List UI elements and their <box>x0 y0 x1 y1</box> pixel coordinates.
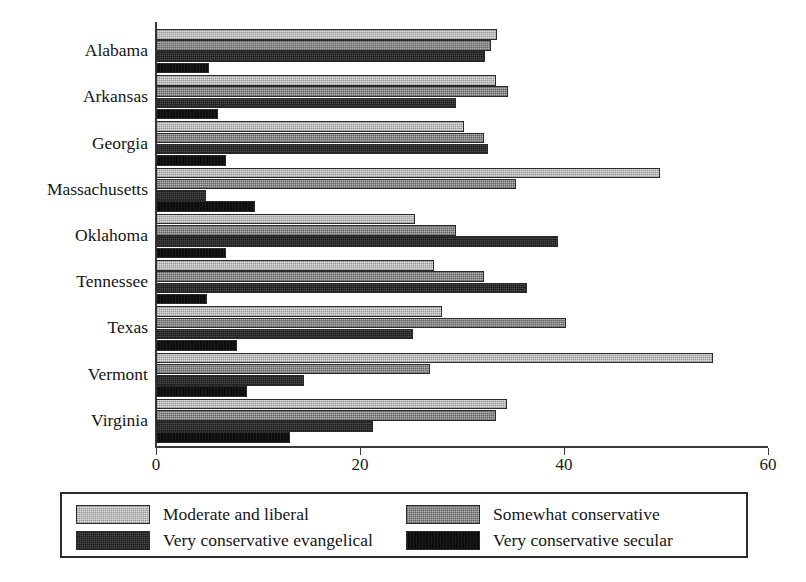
category-label-texas: Texas <box>107 317 148 337</box>
legend-item-very-conservative-evangelical: Very conservative evangelical <box>76 529 373 551</box>
bar-alabama-series-2 <box>156 51 485 62</box>
bar-texas-series-0 <box>156 306 442 317</box>
category-label-vermont: Vermont <box>88 364 148 384</box>
legend-swatch-icon-series-2 <box>76 531 150 550</box>
x-tick-label: 40 <box>544 455 584 475</box>
plot-area: AlabamaArkansasGeorgiaMassachusettsOklah… <box>0 0 806 480</box>
bar-tennessee-series-1 <box>156 271 484 282</box>
bar-tennessee-series-3 <box>156 294 207 305</box>
category-label-virginia: Virginia <box>91 410 148 430</box>
x-tick-label: 60 <box>748 455 788 475</box>
bar-chart: AlabamaArkansasGeorgiaMassachusettsOklah… <box>0 0 806 582</box>
bar-oklahoma-series-1 <box>156 225 456 236</box>
legend-label-series-0: Moderate and liberal <box>163 504 309 524</box>
bar-georgia-series-0 <box>156 121 464 132</box>
legend-label-series-1: Somewhat conservative <box>493 504 660 524</box>
bar-virginia-series-3 <box>156 432 290 443</box>
x-tick-label: 20 <box>340 455 380 475</box>
x-tick-mark <box>360 448 361 455</box>
legend-item-moderate-and-liberal: Moderate and liberal <box>76 503 309 525</box>
bar-alabama-series-3 <box>156 63 209 74</box>
legend-item-somewhat-conservative: Somewhat conservative <box>406 503 660 525</box>
bar-oklahoma-series-0 <box>156 214 415 225</box>
bar-tennessee-series-0 <box>156 260 434 271</box>
legend-label-series-3: Very conservative secular <box>493 530 673 550</box>
bar-virginia-series-1 <box>156 410 496 421</box>
legend-item-very-conservative-secular: Very conservative secular <box>406 529 673 551</box>
x-tick-mark <box>564 448 565 455</box>
bar-virginia-series-0 <box>156 399 507 410</box>
category-label-oklahoma: Oklahoma <box>75 225 148 245</box>
bar-texas-series-3 <box>156 340 237 351</box>
legend-swatch-icon-series-3 <box>406 531 480 550</box>
bar-alabama-series-0 <box>156 29 497 40</box>
bar-massachusetts-series-3 <box>156 201 255 212</box>
bar-texas-series-2 <box>156 329 413 340</box>
bar-arkansas-series-3 <box>156 109 218 120</box>
bar-massachusetts-series-0 <box>156 168 660 179</box>
bar-massachusetts-series-1 <box>156 179 516 190</box>
bar-vermont-series-1 <box>156 364 430 375</box>
bar-texas-series-1 <box>156 318 566 329</box>
x-tick-mark <box>156 448 157 455</box>
bar-vermont-series-0 <box>156 353 713 364</box>
bar-arkansas-series-1 <box>156 86 508 97</box>
bar-virginia-series-2 <box>156 421 373 432</box>
bar-georgia-series-3 <box>156 155 226 166</box>
legend: Moderate and liberal Somewhat conservati… <box>60 492 748 558</box>
bar-vermont-series-3 <box>156 386 247 397</box>
category-label-georgia: Georgia <box>92 133 148 153</box>
legend-label-series-2: Very conservative evangelical <box>163 530 373 550</box>
category-label-arkansas: Arkansas <box>83 86 148 106</box>
bar-arkansas-series-0 <box>156 75 496 86</box>
x-tick-label: 0 <box>136 455 176 475</box>
bar-vermont-series-2 <box>156 375 304 386</box>
bar-georgia-series-1 <box>156 133 484 144</box>
category-label-tennessee: Tennessee <box>76 271 148 291</box>
bar-georgia-series-2 <box>156 144 488 155</box>
category-label-alabama: Alabama <box>85 40 148 60</box>
legend-swatch-icon-series-0 <box>76 505 150 524</box>
bar-massachusetts-series-2 <box>156 190 206 201</box>
bar-arkansas-series-2 <box>156 98 456 109</box>
x-axis-line <box>155 446 768 448</box>
legend-swatch-icon-series-1 <box>406 505 480 524</box>
category-label-massachusetts: Massachusetts <box>47 179 148 199</box>
bar-oklahoma-series-2 <box>156 236 558 247</box>
bar-alabama-series-1 <box>156 40 491 51</box>
bar-tennessee-series-2 <box>156 283 527 294</box>
bar-oklahoma-series-3 <box>156 248 226 259</box>
x-tick-mark <box>768 448 769 455</box>
